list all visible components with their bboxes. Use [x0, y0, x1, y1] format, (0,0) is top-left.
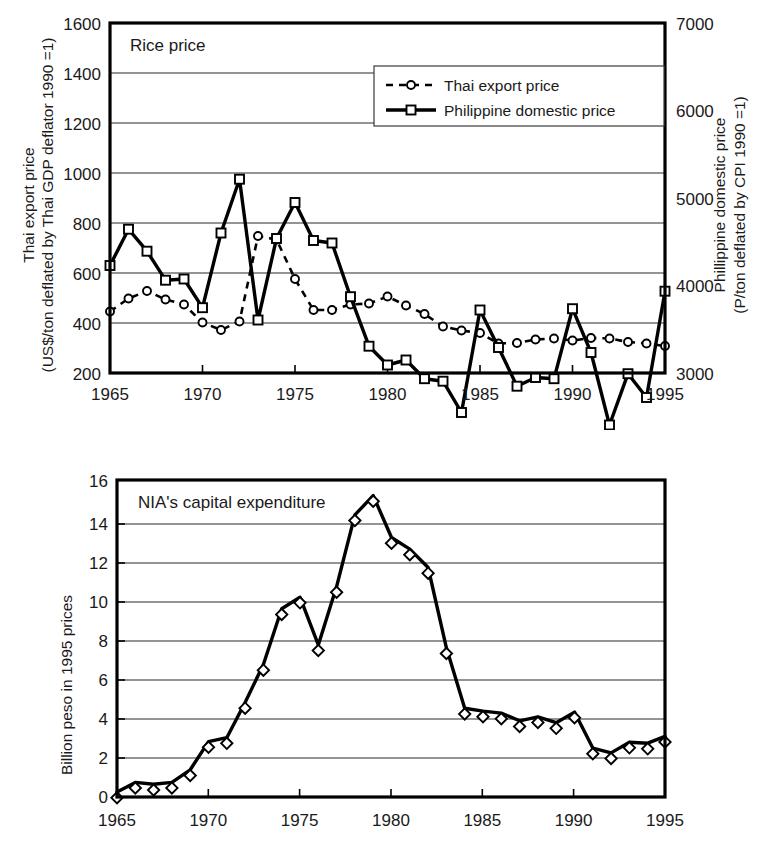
- left-tick-1200: 1200: [63, 115, 101, 134]
- rice-price-chart-panel: Thai export price (US$/ton deflated by T…: [0, 0, 771, 430]
- left-tick-600: 600: [73, 265, 101, 284]
- left-tick-800: 800: [73, 215, 101, 234]
- bottom-x-tick-1995: 1995: [646, 811, 684, 830]
- bottom-x-tick-1965: 1965: [98, 811, 136, 830]
- bottom-x-tick-1990: 1990: [555, 811, 593, 830]
- rice-price-svg: Thai export price (US$/ton deflated by T…: [0, 0, 771, 430]
- bottom-x-tick-1985: 1985: [463, 811, 501, 830]
- bottom-y-tick-10: 10: [89, 593, 108, 612]
- right-tick-3000: 3000: [676, 365, 714, 384]
- top-x-tick-1995: 1995: [646, 385, 684, 404]
- bottom-y-tick-4: 4: [99, 710, 108, 729]
- bottom-x-tick-1980: 1980: [372, 811, 410, 830]
- bottom-y-tick-14: 14: [89, 515, 108, 534]
- bottom-x-axis-tick-labels: 1965 1970 1975 1980 1985 1990 1995: [98, 811, 684, 830]
- bottom-y-axis-tick-labels: 16 14 12 10 8 6 4 2 0: [89, 472, 108, 807]
- nia-capital-expenditure-svg: Billion peso in 1995 prices: [0, 430, 771, 857]
- right-tick-6000: 6000: [676, 102, 714, 121]
- right-axis-title-line2: (P/ton deflated by CPI 1990 =1): [731, 96, 748, 314]
- left-tick-200: 200: [73, 365, 101, 384]
- top-x-tick-1975: 1975: [276, 385, 314, 404]
- top-x-tick-1980: 1980: [369, 385, 407, 404]
- right-tick-7000: 7000: [676, 15, 714, 34]
- left-tick-400: 400: [73, 315, 101, 334]
- bottom-x-tick-1970: 1970: [189, 811, 227, 830]
- top-x-tick-1985: 1985: [461, 385, 499, 404]
- bottom-y-tick-12: 12: [89, 554, 108, 573]
- left-axis-title: Thai export price (US$/ton deflated by T…: [20, 37, 56, 372]
- nia-panel-title: NIA's capital expenditure: [138, 493, 326, 512]
- bottom-y-tick-2: 2: [99, 749, 108, 768]
- series-nia-capital-expenditure-markers: [111, 496, 670, 804]
- bottom-y-axis-title: Billion peso in 1995 prices: [58, 595, 75, 775]
- left-axis-title-line2: (US$/ton deflated by Thai GDP deflator 1…: [39, 37, 56, 372]
- nia-capital-expenditure-chart-panel: Billion peso in 1995 prices: [0, 430, 771, 857]
- legend-label-thai-export-price: Thai export price: [444, 77, 559, 94]
- right-axis-title: Phillippine domestic price (P/ton deflat…: [711, 96, 748, 314]
- left-tick-1400: 1400: [63, 65, 101, 84]
- bottom-y-tick-8: 8: [99, 632, 108, 651]
- right-tick-5000: 5000: [676, 190, 714, 209]
- left-tick-1000: 1000: [63, 165, 101, 184]
- legend-swatch-square-marker: [407, 106, 416, 115]
- right-tick-4000: 4000: [676, 277, 714, 296]
- rice-price-legend[interactable]: Thai export price Philippine domestic pr…: [374, 66, 664, 126]
- legend-swatch-circle-marker: [407, 81, 415, 89]
- bottom-x-tick-1975: 1975: [281, 811, 319, 830]
- series-nia-capital-expenditure: [111, 496, 670, 804]
- top-x-axis-tick-labels: 1965 1970 1975 1980 1985 1990 1995: [91, 385, 684, 404]
- top-x-tick-1990: 1990: [554, 385, 592, 404]
- bottom-horizontal-gridlines: [117, 524, 665, 758]
- bottom-y-tick-16: 16: [89, 472, 108, 491]
- nia-plot-frame: [117, 480, 665, 797]
- rice-price-panel-title: Rice price: [130, 36, 206, 55]
- top-x-tick-1965: 1965: [91, 385, 129, 404]
- left-tick-1600: 1600: [63, 15, 101, 34]
- bottom-y-tick-0: 0: [99, 788, 108, 807]
- top-x-tick-1970: 1970: [184, 385, 222, 404]
- left-axis-tick-labels: 1600 1400 1200 1000 800 600 400 200: [63, 15, 101, 384]
- legend-label-philippine-domestic-price: Philippine domestic price: [444, 102, 615, 119]
- bottom-y-tick-6: 6: [99, 671, 108, 690]
- right-axis-tick-labels: 7000 6000 5000 4000 3000: [676, 15, 714, 384]
- left-axis-title-line1: Thai export price: [20, 147, 37, 262]
